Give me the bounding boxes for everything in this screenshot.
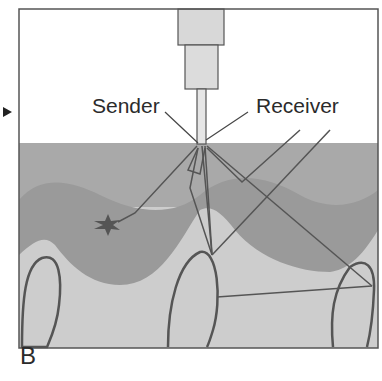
panel-label: B — [20, 342, 36, 370]
ultrasound-diagram — [0, 0, 382, 381]
receiver-label: Receiver — [256, 94, 339, 118]
probe-housing — [178, 9, 224, 45]
sender-label: Sender — [92, 94, 160, 118]
probe-body — [185, 45, 218, 89]
probe-tip — [197, 89, 206, 144]
